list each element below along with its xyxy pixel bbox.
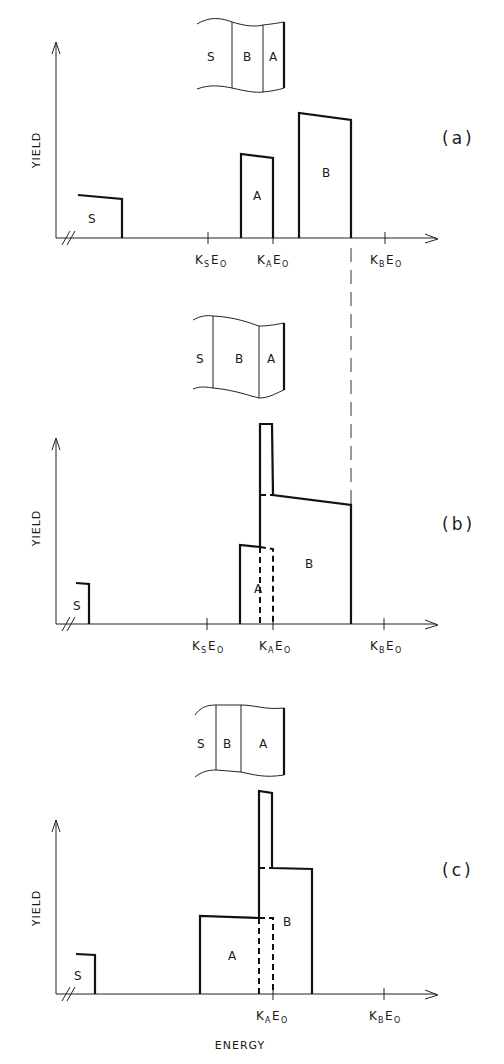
peak-b: [259, 791, 312, 994]
tick-label-ka: K A E O: [257, 253, 288, 269]
svg-text:B: B: [235, 352, 243, 366]
tick-label-kb: K B E O: [369, 1009, 400, 1025]
svg-text:S: S: [197, 737, 205, 751]
backscattering-spectra-figure: S B A YIELD K S E O K A E O K B: [0, 0, 504, 1064]
svg-text:A: A: [265, 1016, 271, 1025]
peak-b: [260, 424, 351, 624]
svg-text:S: S: [201, 646, 206, 655]
peak-label: A: [253, 189, 262, 203]
svg-text:E: E: [386, 253, 394, 267]
y-axis-label: YIELD: [30, 510, 43, 548]
svg-text:A: A: [267, 352, 276, 366]
panel-label: (a): [442, 128, 475, 148]
svg-text:E: E: [386, 639, 394, 653]
svg-text:K: K: [369, 1009, 378, 1023]
y-axis-label: YIELD: [30, 890, 43, 928]
svg-text:B: B: [379, 646, 385, 655]
x-axis-label: ENERGY: [215, 1039, 265, 1052]
svg-text:E: E: [272, 1009, 280, 1023]
peak-label: A: [254, 582, 263, 596]
svg-text:A: A: [259, 737, 268, 751]
sample-schematic-c: S B A: [195, 705, 284, 777]
sample-schematic-a: S B A: [197, 19, 284, 93]
svg-text:K: K: [370, 639, 379, 653]
panel-label: (c): [442, 860, 474, 880]
svg-text:K: K: [370, 253, 379, 267]
svg-text:O: O: [220, 260, 226, 269]
svg-text:K: K: [257, 253, 266, 267]
svg-text:S: S: [196, 352, 204, 366]
svg-text:O: O: [217, 646, 223, 655]
peak-label: S: [73, 599, 81, 613]
panel-a: S B A YIELD K S E O K A E O K B: [30, 19, 475, 270]
svg-text:B: B: [223, 737, 231, 751]
sample-schematic-b: S B A: [193, 316, 284, 398]
svg-text:E: E: [208, 639, 216, 653]
panel-label: (b): [442, 514, 475, 534]
svg-text:O: O: [395, 646, 401, 655]
svg-text:O: O: [281, 1016, 287, 1025]
peak-label: B: [322, 166, 330, 180]
tick-label-ks: K S E O: [195, 253, 226, 269]
peak-label: B: [283, 915, 291, 929]
svg-text:E: E: [385, 1009, 393, 1023]
layer-label: A: [269, 50, 278, 64]
tick-label-ks: K S E O: [192, 639, 223, 655]
svg-text:A: A: [268, 646, 274, 655]
svg-text:E: E: [275, 639, 283, 653]
tick-label-kb: K B E O: [370, 253, 401, 269]
svg-text:O: O: [284, 646, 290, 655]
svg-text:S: S: [204, 260, 209, 269]
svg-text:O: O: [395, 260, 401, 269]
svg-text:B: B: [379, 260, 385, 269]
y-axis-label: YIELD: [30, 132, 43, 170]
svg-text:O: O: [282, 260, 288, 269]
peak-label: S: [88, 212, 96, 226]
svg-text:K: K: [195, 253, 204, 267]
svg-text:B: B: [378, 1016, 384, 1025]
peak-s: [78, 195, 122, 238]
svg-text:K: K: [192, 639, 201, 653]
svg-text:E: E: [273, 253, 281, 267]
panel-b: S B A YIELD K S E O K A E O K B E: [30, 316, 475, 655]
peak-label: B: [305, 557, 313, 571]
panel-c: S B A YIELD K A E O K B E O S: [30, 705, 474, 1052]
tick-label-kb: K B E O: [370, 639, 401, 655]
svg-text:E: E: [211, 253, 219, 267]
peak-label: S: [74, 969, 82, 983]
layer-label: S: [207, 50, 215, 64]
layer-label: B: [243, 50, 251, 64]
svg-text:A: A: [266, 260, 272, 269]
tick-label-ka: K A E O: [256, 1009, 287, 1025]
svg-text:O: O: [394, 1016, 400, 1025]
tick-label-ka: K A E O: [259, 639, 290, 655]
svg-text:K: K: [256, 1009, 265, 1023]
peak-label: A: [228, 949, 237, 963]
svg-text:K: K: [259, 639, 268, 653]
